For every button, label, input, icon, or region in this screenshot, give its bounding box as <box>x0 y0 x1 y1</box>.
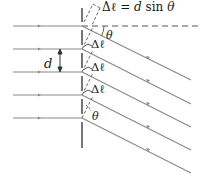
theta-label-top: θ <box>106 30 113 41</box>
path-difference-equation: Δℓ = d sin θ <box>102 1 174 13</box>
delta-l-label-2: Δℓ <box>91 62 105 74</box>
theta-label-bottom: θ <box>92 111 99 122</box>
diffracted-arrow-icons <box>146 56 150 152</box>
slit-spacing-arrow <box>58 49 62 72</box>
incident-rays <box>13 26 82 118</box>
slit-spacing-label: d <box>44 57 52 70</box>
delta-l-label-1: Δℓ <box>91 39 105 51</box>
incident-arrow-icons <box>38 25 41 120</box>
theta-arc-top <box>102 26 105 36</box>
delta-l-label-3: Δℓ <box>91 84 105 96</box>
